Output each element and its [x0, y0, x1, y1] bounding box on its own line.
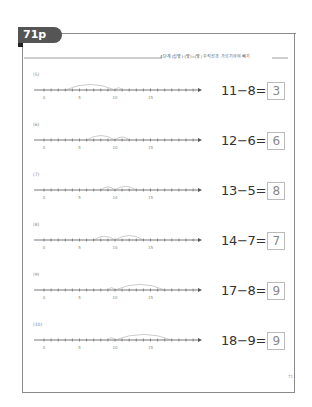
svg-text:10: 10: [112, 195, 118, 200]
problem-number: (5): [33, 72, 39, 77]
equation-expression: 13−5=: [221, 183, 266, 198]
equation: 14−7=7: [221, 232, 285, 250]
problem-number: (9): [33, 272, 39, 277]
svg-text:10: 10: [112, 345, 118, 350]
header-rule-left: [24, 57, 162, 59]
page-badge: 71p: [18, 27, 62, 43]
svg-text:15: 15: [148, 245, 154, 250]
svg-text:0: 0: [43, 95, 46, 100]
problem: (6)05101512−6=6: [22, 122, 295, 172]
svg-text:10: 10: [112, 95, 118, 100]
problem: (5)05101511−8=3: [22, 72, 295, 122]
number-line: 051015: [32, 180, 202, 202]
problem-number: (6): [33, 122, 39, 127]
equation-expression: 11−8=: [221, 83, 266, 98]
equation-expression: 14−7=: [221, 233, 266, 248]
answer-box[interactable]: 8: [267, 182, 285, 200]
number-line: 051015: [32, 230, 202, 252]
equation: 17−8=9: [221, 282, 285, 300]
page-number: 71: [288, 374, 293, 379]
equation: 12−6=6: [221, 132, 285, 150]
problem-number: (10): [33, 322, 42, 327]
svg-text:15: 15: [148, 345, 154, 350]
number-line: 051015: [32, 280, 202, 302]
problem-number: (7): [33, 172, 39, 177]
svg-text:0: 0: [43, 195, 46, 200]
svg-text:0: 0: [43, 295, 46, 300]
svg-text:0: 0: [43, 345, 46, 350]
svg-text:5: 5: [78, 145, 81, 150]
equation-expression: 17−8=: [221, 283, 266, 298]
problem: (8)05101514−7=7: [22, 222, 295, 272]
equation-expression: 12−6=: [221, 133, 266, 148]
header-rule-right: [272, 57, 288, 59]
section-title: 4단계 (십몇)-(몇)=(몇) 수직선과 가르기하여 빼기: [160, 53, 250, 59]
svg-text:5: 5: [78, 345, 81, 350]
problem: (9)05101517−8=9: [22, 272, 295, 322]
svg-text:15: 15: [148, 145, 154, 150]
svg-text:10: 10: [112, 295, 118, 300]
answer-box[interactable]: 3: [267, 82, 285, 100]
svg-text:10: 10: [112, 145, 118, 150]
equation-expression: 18−9=: [221, 333, 266, 348]
answer-box[interactable]: 9: [267, 282, 285, 300]
svg-text:10: 10: [112, 245, 118, 250]
svg-text:5: 5: [78, 245, 81, 250]
svg-text:15: 15: [148, 95, 154, 100]
svg-text:0: 0: [43, 245, 46, 250]
equation: 11−8=3: [221, 82, 285, 100]
answer-box[interactable]: 9: [267, 332, 285, 350]
svg-text:0: 0: [43, 145, 46, 150]
svg-text:15: 15: [148, 195, 154, 200]
badge-tab: [18, 43, 23, 47]
problem-number: (8): [33, 222, 39, 227]
svg-text:5: 5: [78, 195, 81, 200]
equation: 13−5=8: [221, 182, 285, 200]
svg-text:5: 5: [78, 95, 81, 100]
equation: 18−9=9: [221, 332, 285, 350]
number-line: 051015: [32, 330, 202, 352]
header-bar: [24, 55, 292, 61]
svg-text:15: 15: [148, 295, 154, 300]
answer-box[interactable]: 7: [267, 232, 285, 250]
problem: (7)05101513−5=8: [22, 172, 295, 222]
number-line: 051015: [32, 130, 202, 152]
svg-text:5: 5: [78, 295, 81, 300]
problem: (10)05101518−9=9: [22, 322, 295, 372]
answer-box[interactable]: 6: [267, 132, 285, 150]
number-line: 051015: [32, 80, 202, 102]
